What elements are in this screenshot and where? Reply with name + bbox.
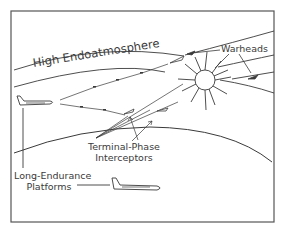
detonation-burst [178,52,231,110]
warhead-track-right [220,80,274,93]
diagram-figure: High Endoatmosphere Warheads Terminal-Ph… [0,0,285,228]
label-long-endurance-platforms: Long-Endurance Platforms [14,171,84,193]
label-platforms-line2: Platforms [14,182,84,193]
label-warheads: Warheads [221,44,268,55]
track-markers [80,72,143,111]
atmosphere-lower-curve [14,68,165,87]
aircraft-platform-bottom [112,178,160,190]
aircraft-platform-left [17,96,53,105]
label-terminal-phase-interceptors: Terminal-Phase Interceptors [74,142,174,164]
diagram-canvas [0,0,285,228]
label-terminal-phase-line2: Interceptors [74,153,174,164]
interceptor-missile [124,56,184,114]
interceptor-tracks [60,64,183,141]
